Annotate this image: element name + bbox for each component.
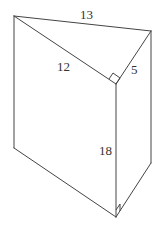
label-leg-5: 5 bbox=[131, 62, 138, 77]
prism-diagram: 13 12 5 18 bbox=[0, 0, 160, 228]
label-leg-12: 12 bbox=[57, 59, 70, 74]
edge-bottom-leg-12 bbox=[14, 148, 116, 217]
right-angle-mark-bottom bbox=[116, 204, 120, 211]
label-hypotenuse: 13 bbox=[80, 7, 93, 22]
right-angle-mark-top bbox=[109, 73, 120, 84]
edge-bottom-leg-5 bbox=[116, 163, 151, 217]
label-height: 18 bbox=[99, 143, 112, 158]
